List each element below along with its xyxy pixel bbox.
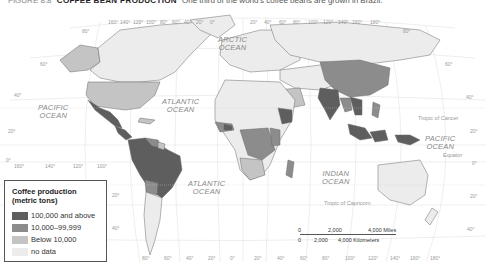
tropic-of-cancer-label: Tropic of Cancer bbox=[418, 115, 458, 121]
lon-label: 80° bbox=[293, 19, 301, 25]
indonesia-west bbox=[348, 124, 372, 140]
lon-label: 20° bbox=[254, 255, 262, 261]
legend-title: Coffee production(metric tons) bbox=[12, 187, 77, 205]
ocean-label-indian: INDIANOCEAN bbox=[322, 170, 350, 186]
lon-label: 40° bbox=[184, 19, 192, 25]
lon-label: 0° bbox=[210, 19, 215, 25]
legend-item-medium: 10,000–99,999 bbox=[12, 223, 81, 232]
lon-label: 120° bbox=[368, 255, 378, 261]
lon-label: 100° bbox=[97, 163, 107, 169]
lat-label: 80° bbox=[403, 28, 411, 34]
scale-miles-4000: 4,000 Miles bbox=[368, 227, 396, 233]
ocean-label-atlantic-south: ATLANTICOCEAN bbox=[188, 180, 225, 196]
australia bbox=[378, 160, 428, 205]
argentina-chile bbox=[144, 192, 162, 255]
scale-miles-2000: 2,000 bbox=[328, 227, 342, 233]
lon-label: 100° bbox=[146, 19, 156, 25]
legend-swatch bbox=[12, 248, 28, 256]
lat-label: 40° bbox=[466, 94, 474, 100]
lon-label: 160° bbox=[108, 19, 118, 25]
new-zealand bbox=[425, 208, 438, 225]
lon-label: 40° bbox=[264, 19, 272, 25]
indonesia-borneo bbox=[370, 130, 388, 142]
ocean-label-atlantic-north: ATLANTICOCEAN bbox=[162, 98, 199, 114]
lat-label: 0° bbox=[472, 160, 477, 166]
lon-label: 0° bbox=[230, 255, 235, 261]
lon-label: 100° bbox=[308, 19, 318, 25]
lon-label: 60° bbox=[172, 19, 180, 25]
lon-label: 40° bbox=[186, 255, 194, 261]
lon-label: 20° bbox=[250, 19, 258, 25]
lat-label: 40° bbox=[14, 92, 22, 98]
southern-africa bbox=[240, 158, 265, 180]
lon-label: 60° bbox=[279, 19, 287, 25]
lon-label: 20° bbox=[208, 255, 216, 261]
lon-label: 160° bbox=[410, 255, 420, 261]
legend-item-low: Below 10,000 bbox=[12, 235, 76, 244]
scale-line bbox=[300, 234, 396, 235]
lon-label: 140° bbox=[338, 19, 348, 25]
tropic-of-capricorn-label: Tropic of Capricorn bbox=[324, 200, 371, 206]
lat-label: 0° bbox=[6, 157, 11, 163]
lat-label: 40° bbox=[467, 226, 475, 232]
lon-label: 80° bbox=[160, 19, 168, 25]
lon-label: 180° bbox=[370, 19, 380, 25]
scale-km-0: 0 bbox=[298, 237, 301, 243]
canada bbox=[90, 22, 215, 82]
lon-label: 60° bbox=[300, 255, 308, 261]
scale-bar: 0 2,000 4,000 Miles 0 2,000 4,000 Kilome… bbox=[298, 227, 438, 247]
lon-label: 160° bbox=[352, 19, 362, 25]
ocean-label-pacific-west: PACIFICOCEAN bbox=[38, 104, 68, 120]
lon-label: 80° bbox=[322, 255, 330, 261]
lon-label: 180° bbox=[430, 255, 440, 261]
india bbox=[318, 88, 340, 120]
east-africa bbox=[270, 128, 280, 146]
lon-label: 120° bbox=[73, 163, 83, 169]
philippines bbox=[372, 102, 380, 118]
legend-item-nodata: no data bbox=[12, 247, 56, 256]
scale-km-4000: 4,000 Kilometers bbox=[338, 237, 379, 243]
papua bbox=[395, 135, 420, 145]
caribbean bbox=[138, 118, 155, 124]
lon-label: 120° bbox=[323, 19, 333, 25]
ocean-label-arctic: ARCTICOCEAN bbox=[218, 36, 247, 52]
lat-label: 40° bbox=[112, 225, 120, 231]
lon-label: 20° bbox=[196, 19, 204, 25]
legend-swatch bbox=[12, 212, 28, 220]
scale-km-2000: 2,000 bbox=[314, 237, 328, 243]
lon-label: 160° bbox=[14, 163, 24, 169]
equator-label: Equator bbox=[443, 152, 462, 158]
lon-label: 80° bbox=[142, 255, 150, 261]
lat-label: 20° bbox=[470, 193, 478, 199]
lon-label: 140° bbox=[120, 19, 130, 25]
scale-miles-0: 0 bbox=[298, 227, 301, 233]
map-legend: Coffee production(metric tons) 100,000 a… bbox=[4, 180, 107, 262]
legend-swatch bbox=[12, 236, 28, 244]
lon-label: 100° bbox=[345, 255, 355, 261]
thailand-laos bbox=[340, 98, 352, 112]
madagascar bbox=[286, 160, 294, 178]
lat-label: 80° bbox=[82, 28, 90, 34]
lat-label: 20° bbox=[470, 128, 478, 134]
lon-label: 120° bbox=[133, 19, 143, 25]
lon-label: 140° bbox=[45, 163, 55, 169]
lon-label: 60° bbox=[164, 255, 172, 261]
legend-item-high: 100,000 and above bbox=[12, 211, 95, 220]
lat-label: 20° bbox=[112, 192, 120, 198]
lat-label: 20° bbox=[8, 128, 16, 134]
lon-label: 40° bbox=[277, 255, 285, 261]
central-america bbox=[115, 126, 132, 140]
lat-label: 60° bbox=[445, 61, 453, 67]
lon-label: 140° bbox=[390, 255, 400, 261]
lat-label: 60° bbox=[40, 61, 48, 67]
legend-swatch bbox=[12, 224, 28, 232]
ocean-label-pacific-east: PACIFICOCEAN bbox=[425, 135, 455, 151]
vietnam bbox=[350, 97, 362, 115]
